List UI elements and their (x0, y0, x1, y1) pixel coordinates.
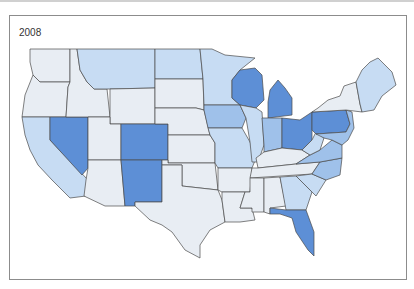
state-south-dakota[interactable] (155, 79, 204, 110)
state-iowa[interactable] (204, 105, 246, 128)
us-choropleth-map (0, 0, 414, 289)
state-arkansas[interactable] (218, 168, 252, 192)
state-indiana[interactable] (262, 118, 282, 152)
state-new-mexico[interactable] (121, 160, 162, 206)
state-wyoming[interactable] (110, 88, 155, 124)
state-new-york[interactable] (312, 82, 362, 112)
state-arizona[interactable] (84, 160, 125, 206)
state-montana[interactable] (77, 49, 155, 89)
state-kansas[interactable] (168, 135, 215, 163)
state-new-england[interactable] (356, 58, 396, 112)
state-north-dakota[interactable] (155, 49, 203, 79)
state-colorado[interactable] (121, 124, 168, 160)
state-pennsylvania[interactable] (312, 110, 350, 134)
state-wisconsin[interactable] (232, 68, 264, 108)
state-florida[interactable] (270, 208, 314, 256)
state-michigan[interactable] (268, 80, 292, 118)
state-washington[interactable] (30, 49, 70, 82)
